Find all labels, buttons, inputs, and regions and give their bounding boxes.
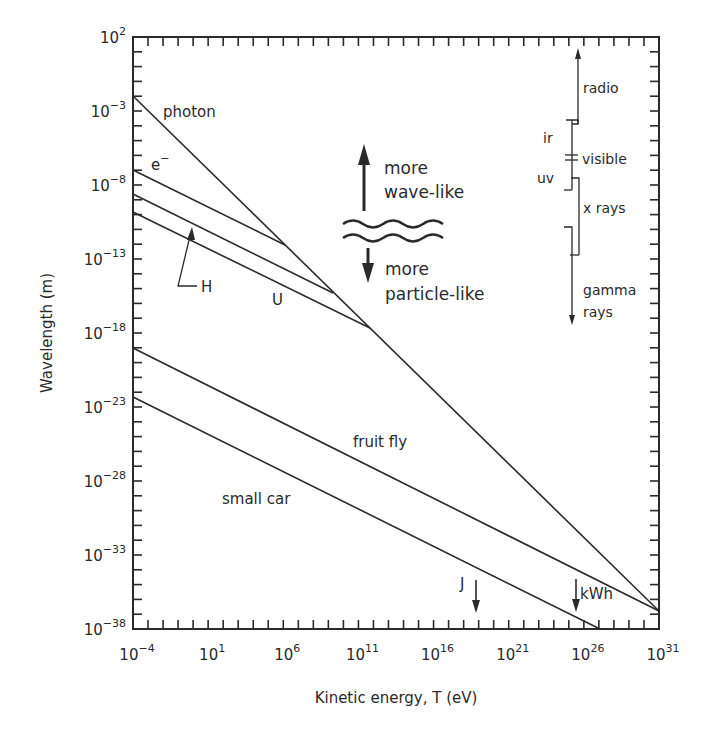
y-tick-labels: 10210−310−810−1310−1810−2310−2810−3310−3… [84, 25, 126, 639]
label-fruit-fly: fruit fly [353, 433, 407, 451]
label-gamma: gamma [583, 282, 636, 298]
label-more-wave-1: more [384, 158, 428, 178]
plot-frame [133, 37, 659, 629]
label-electron-sup: − [160, 152, 169, 165]
kwh-marker [572, 579, 580, 612]
x-tick-label: 106 [274, 642, 300, 664]
particle-arrow-down-icon [362, 248, 374, 283]
label-visible: visible [582, 151, 627, 167]
label-small-car: small car [222, 490, 291, 508]
hydrogen-pointer [178, 232, 197, 286]
label-joule: J [459, 575, 464, 593]
y-tick-label: 10−8 [91, 173, 126, 195]
y-tick-label: 10−18 [84, 321, 126, 343]
label-ir: ir [543, 130, 553, 146]
y-tick-label: 10−38 [84, 617, 126, 639]
label-electron: e− [151, 152, 169, 174]
y-tick-label: 10−28 [84, 469, 126, 491]
line-hydrogen [133, 194, 333, 293]
y-tick-label: 102 [100, 25, 126, 47]
chart: 10210−310−810−1310−1810−2310−2810−3310−3… [0, 0, 703, 745]
x-tick-label: 1011 [346, 642, 379, 664]
gamma-arrow-icon [569, 315, 575, 325]
label-photon: photon [163, 103, 216, 121]
x-tick-label: 10−4 [119, 642, 154, 664]
label-more-particle-2: particle-like [385, 284, 484, 304]
x-tick-label: 1031 [646, 642, 679, 664]
joule-marker [472, 580, 480, 613]
x-tick-label: 1021 [496, 642, 529, 664]
line-fruit-fly [133, 348, 659, 611]
joule-arrow-icon [472, 600, 480, 613]
label-uv: uv [537, 170, 554, 186]
label-electron-base: e [151, 156, 160, 174]
label-radio: radio [583, 80, 619, 96]
wavy-lines-icon [343, 221, 443, 242]
wave-arrow-up-icon [358, 144, 370, 211]
y-tick-label: 10−13 [84, 247, 126, 269]
x-tick-label: 1016 [421, 642, 454, 664]
line-uranium [133, 212, 370, 328]
y-tick-label: 10−3 [91, 99, 126, 121]
y-tick-label: 10−33 [84, 543, 126, 565]
spectrum-bracket [564, 56, 579, 320]
label-uranium: U [272, 291, 283, 309]
line-electron [133, 170, 285, 245]
y-tick-label: 10−23 [84, 395, 126, 417]
label-x-rays: x rays [583, 200, 626, 216]
radio-arrow-icon [575, 48, 581, 59]
label-more-particle-1: more [385, 259, 429, 279]
line-small-car [133, 397, 600, 629]
label-gamma-rays: rays [583, 304, 613, 320]
label-kwh: kWh [580, 585, 613, 603]
x-tick-label: 101 [199, 642, 225, 664]
axis-ticks [133, 37, 659, 629]
x-tick-label: 1026 [571, 642, 604, 664]
kwh-arrow-icon [572, 599, 580, 612]
label-more-wave-2: wave-like [384, 182, 464, 202]
y-axis-label: Wavelength (m) [38, 273, 56, 393]
label-hydrogen: H [201, 278, 212, 296]
x-axis-label: Kinetic energy, T (eV) [315, 689, 478, 707]
x-tick-labels: 10−410110610111016102110261031 [119, 642, 679, 664]
hydrogen-pointer-arrowhead-icon [187, 227, 195, 240]
